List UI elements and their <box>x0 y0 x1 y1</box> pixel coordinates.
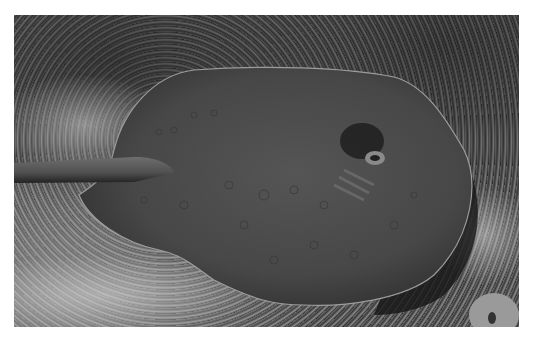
stingray-photo <box>14 15 519 327</box>
stingray-illustration <box>14 15 519 327</box>
